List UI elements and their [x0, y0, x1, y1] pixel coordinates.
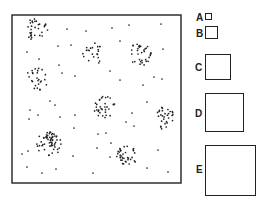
point	[45, 23, 47, 25]
point	[105, 114, 107, 116]
point	[157, 112, 159, 114]
point	[162, 107, 164, 109]
point	[74, 114, 76, 116]
point	[86, 47, 88, 49]
point	[27, 72, 29, 74]
point	[146, 101, 148, 103]
point	[57, 151, 59, 153]
point	[141, 52, 143, 54]
point	[131, 112, 133, 114]
quadrat-box-a	[205, 13, 212, 20]
point	[160, 23, 162, 25]
point	[31, 70, 33, 72]
point	[74, 75, 76, 77]
point	[107, 96, 109, 98]
point	[141, 60, 143, 62]
point	[109, 115, 111, 117]
point	[153, 76, 155, 78]
point	[136, 43, 138, 45]
point	[59, 139, 61, 141]
point	[105, 97, 107, 99]
point	[99, 106, 101, 108]
point	[143, 64, 145, 66]
point	[27, 26, 29, 28]
point	[109, 156, 111, 158]
point	[119, 40, 121, 42]
point	[37, 80, 39, 82]
point	[130, 159, 132, 161]
point	[41, 172, 43, 174]
point	[147, 46, 149, 48]
point	[104, 103, 106, 105]
point	[37, 145, 39, 147]
point	[137, 48, 139, 50]
point	[127, 159, 129, 161]
point	[44, 143, 46, 145]
point	[120, 159, 122, 161]
point	[92, 172, 94, 174]
point	[32, 81, 34, 83]
point	[98, 62, 100, 64]
point	[163, 116, 165, 118]
point	[105, 111, 107, 113]
point	[105, 132, 107, 134]
point	[108, 108, 110, 110]
point	[133, 125, 135, 127]
point	[52, 136, 54, 138]
quadrat-label-a: A	[196, 13, 203, 23]
point	[143, 51, 145, 53]
point	[94, 110, 96, 112]
point	[47, 139, 49, 141]
point	[163, 118, 165, 120]
study-area-frame	[12, 15, 181, 183]
point	[158, 111, 160, 113]
point	[70, 44, 72, 46]
point	[30, 33, 32, 35]
point	[106, 106, 108, 108]
point	[40, 141, 42, 143]
point	[53, 148, 55, 150]
point	[49, 142, 51, 144]
point	[118, 151, 120, 153]
point	[49, 100, 51, 102]
point	[60, 143, 62, 145]
quadrat-label-d: D	[195, 109, 202, 119]
point	[167, 114, 169, 116]
point	[99, 112, 101, 114]
point	[34, 68, 36, 70]
point	[85, 30, 87, 32]
point	[96, 147, 98, 149]
point	[119, 79, 121, 81]
individual-points	[21, 18, 174, 174]
point	[72, 155, 74, 157]
point	[37, 70, 39, 72]
point	[43, 26, 45, 28]
point	[57, 45, 59, 47]
point	[140, 61, 142, 63]
point	[93, 56, 95, 58]
point	[47, 29, 49, 31]
point	[86, 49, 88, 51]
point	[101, 109, 103, 111]
point	[131, 49, 133, 51]
point	[55, 141, 57, 143]
point	[49, 136, 51, 138]
point	[125, 161, 127, 163]
point	[30, 29, 32, 31]
point	[32, 22, 34, 24]
point	[56, 139, 58, 141]
point	[26, 51, 28, 53]
point	[161, 78, 163, 80]
point	[162, 115, 164, 117]
point	[53, 133, 55, 135]
point	[131, 53, 133, 55]
point	[162, 48, 164, 50]
point	[36, 87, 38, 89]
point	[92, 53, 94, 55]
point	[38, 68, 40, 70]
point	[53, 144, 55, 146]
point	[98, 50, 100, 52]
point	[146, 167, 148, 169]
point	[117, 153, 119, 155]
point	[132, 45, 134, 47]
